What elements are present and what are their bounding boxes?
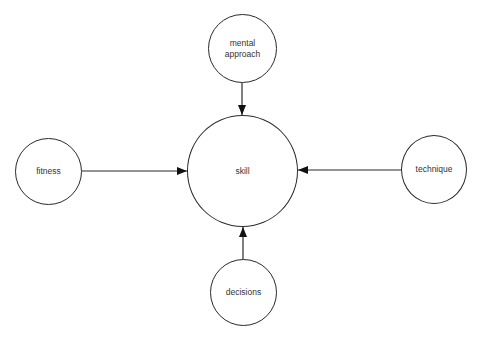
node-label-technique: technique <box>416 164 453 175</box>
node-label-skill: skill <box>235 166 249 177</box>
node-decisions: decisions <box>210 259 277 326</box>
node-label-mental-approach: mental approach <box>225 38 260 59</box>
node-label-decisions: decisions <box>226 287 261 298</box>
node-technique: technique <box>401 135 467 204</box>
node-mental-approach: mental approach <box>208 14 277 83</box>
node-label-fitness: fitness <box>36 166 61 177</box>
node-fitness: fitness <box>15 138 82 205</box>
node-skill: skill <box>187 115 298 227</box>
